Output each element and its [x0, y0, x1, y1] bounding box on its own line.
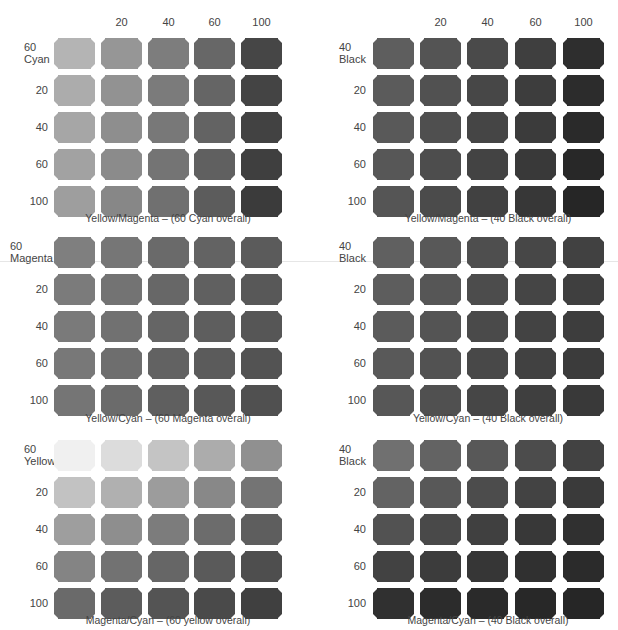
color-swatch [241, 477, 282, 508]
color-swatch [467, 311, 508, 342]
color-swatch [515, 38, 556, 69]
color-swatch [515, 348, 556, 379]
color-swatch [101, 112, 142, 143]
color-swatch [563, 75, 604, 106]
color-swatch [241, 274, 282, 305]
color-swatch [241, 112, 282, 143]
column-header-20: 20 [101, 16, 142, 28]
row-label-60: 60 [320, 560, 366, 572]
color-swatch [420, 274, 461, 305]
color-swatch [515, 477, 556, 508]
color-swatch [563, 477, 604, 508]
row-label-20: 20 [320, 84, 366, 96]
color-swatch [420, 348, 461, 379]
color-swatch [373, 440, 414, 471]
color-swatch [194, 149, 235, 180]
row-label-40: 40 [2, 523, 48, 535]
panel-caption: Magenta/Cyan – (40 Black overall) [358, 614, 618, 626]
row-label-100: 100 [2, 597, 48, 609]
color-swatch [563, 38, 604, 69]
color-swatch [563, 112, 604, 143]
row-label-40: 40 [2, 320, 48, 332]
color-swatch [101, 38, 142, 69]
color-swatch [515, 274, 556, 305]
color-swatch [373, 274, 414, 305]
color-swatch [563, 551, 604, 582]
row-label-20: 20 [2, 283, 48, 295]
row-label-100: 100 [2, 195, 48, 207]
color-swatch [101, 149, 142, 180]
color-swatch [101, 274, 142, 305]
color-swatch [54, 477, 95, 508]
color-swatch [563, 274, 604, 305]
color-swatch [373, 38, 414, 69]
color-swatch [241, 514, 282, 545]
color-swatch [54, 311, 95, 342]
color-swatch [54, 237, 95, 268]
color-swatch [515, 551, 556, 582]
color-swatch [467, 112, 508, 143]
color-swatch [515, 149, 556, 180]
color-swatch [420, 477, 461, 508]
panel-caption: Yellow/Magenta – (40 Black overall) [358, 212, 618, 224]
color-swatch [148, 514, 189, 545]
color-swatch [101, 514, 142, 545]
color-swatch [101, 551, 142, 582]
color-swatch [54, 514, 95, 545]
color-swatch [194, 75, 235, 106]
color-swatch [515, 311, 556, 342]
color-swatch [467, 149, 508, 180]
panel-caption: Yellow/Cyan – (60 Magenta overall) [38, 412, 298, 424]
color-swatch [467, 237, 508, 268]
color-swatch [515, 75, 556, 106]
color-swatch [420, 75, 461, 106]
color-swatch [54, 112, 95, 143]
row-label-100: 100 [320, 195, 366, 207]
color-swatch [148, 551, 189, 582]
color-swatch [101, 311, 142, 342]
color-swatch [148, 149, 189, 180]
color-swatch [194, 514, 235, 545]
color-swatch [54, 274, 95, 305]
color-swatch [101, 237, 142, 268]
color-swatch [54, 440, 95, 471]
color-swatch [467, 514, 508, 545]
color-swatch [373, 311, 414, 342]
color-swatch [563, 237, 604, 268]
color-swatch [101, 348, 142, 379]
color-swatch [54, 551, 95, 582]
color-swatch [515, 112, 556, 143]
color-swatch [241, 348, 282, 379]
color-swatch [101, 75, 142, 106]
color-swatch [373, 477, 414, 508]
color-swatch [373, 75, 414, 106]
color-swatch [194, 274, 235, 305]
color-swatch [54, 75, 95, 106]
color-swatch [515, 237, 556, 268]
color-swatch [373, 149, 414, 180]
color-swatch [563, 514, 604, 545]
corner-label-value: 60 [10, 240, 56, 252]
row-label-60: 60 [320, 357, 366, 369]
color-swatch [420, 149, 461, 180]
color-swatch [420, 38, 461, 69]
color-swatch [194, 112, 235, 143]
color-swatch [563, 348, 604, 379]
color-swatch [467, 440, 508, 471]
row-label-20: 20 [320, 486, 366, 498]
row-label-100: 100 [2, 394, 48, 406]
color-swatch [194, 311, 235, 342]
color-swatch [373, 237, 414, 268]
panel-caption: Yellow/Cyan – (40 Black overall) [358, 412, 618, 424]
row-label-100: 100 [320, 597, 366, 609]
column-header-60: 60 [515, 16, 556, 28]
color-swatch [467, 477, 508, 508]
color-swatch [420, 551, 461, 582]
color-swatch [467, 551, 508, 582]
color-swatch [515, 440, 556, 471]
color-swatch [467, 38, 508, 69]
color-swatch [241, 311, 282, 342]
color-swatch [148, 477, 189, 508]
color-swatch [148, 237, 189, 268]
row-label-20: 20 [2, 84, 48, 96]
